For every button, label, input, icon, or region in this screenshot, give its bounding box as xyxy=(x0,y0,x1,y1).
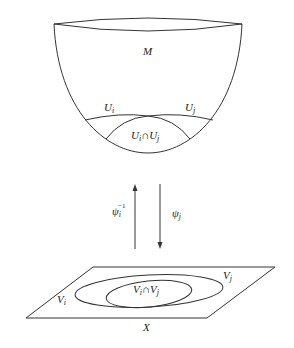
label-psi-j: ψj xyxy=(172,207,182,221)
arrow-psi-j xyxy=(158,184,163,249)
arrowhead-down-icon xyxy=(158,242,163,249)
label-psi-i-inverse: ψi−1 xyxy=(112,202,126,219)
label-Ui-cap-Uj: Ui∩Uj xyxy=(131,129,160,143)
label-Vi: Vi xyxy=(57,293,66,307)
label-X: X xyxy=(142,321,151,333)
label-Uj: Uj xyxy=(185,101,196,115)
label-Vi-cap-Vj: Vi∩Vj xyxy=(133,283,160,297)
label-Ui: Ui xyxy=(104,101,114,115)
bowl-rim-bottom xyxy=(54,24,242,31)
arrowhead-up-icon xyxy=(133,184,138,191)
chart-diagram: M Ui Uj Ui∩Uj ψi−1 ψj Vi Vj Vi∩Vj X xyxy=(0,0,294,348)
bowl-rim-top xyxy=(54,18,242,24)
arrow-psi-inverse xyxy=(133,184,138,249)
label-M: M xyxy=(142,45,153,57)
label-Vj: Vj xyxy=(223,269,233,283)
